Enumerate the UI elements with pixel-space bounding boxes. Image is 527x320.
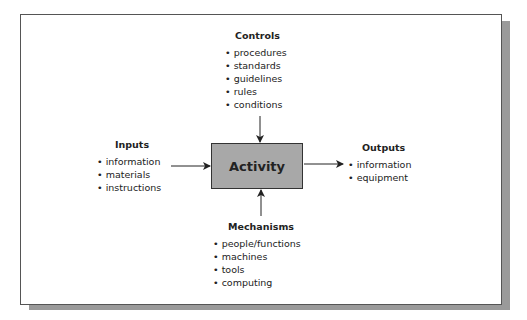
arrows bbox=[0, 0, 527, 320]
